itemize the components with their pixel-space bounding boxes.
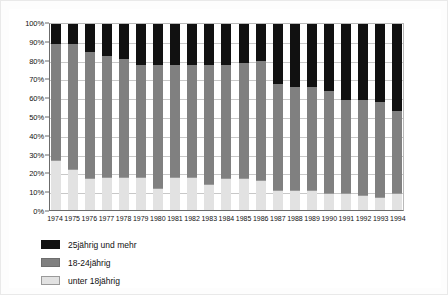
legend-swatch-25-plus [41,240,60,249]
bar-1974 [51,24,61,210]
bar-segment-18-24 [273,84,283,190]
bar-segment-18-24 [375,102,385,197]
bar-1977 [102,24,112,210]
x-axis-tick-label: 1987 [273,212,283,226]
bar-1994 [392,24,402,210]
y-axis-tick-label: 40% [29,131,44,140]
bar-segment-18-24 [239,63,249,178]
bar-segment-18-24 [85,52,95,178]
x-axis-tick-label: 1977 [101,212,111,226]
y-axis: 0%10%20%30%40%50%60%70%80%90%100% [9,23,49,211]
x-axis-tick-label: 1990 [324,212,334,226]
x-axis-tick-label: 1992 [359,212,369,226]
bar-segment-25-plus [170,24,180,65]
bar-1982 [187,24,197,210]
x-axis-tick-label: 1993 [376,212,386,226]
bar-segment-25-plus [221,24,231,65]
bar-segment-18-24 [392,111,402,193]
bar-segment-under-18 [256,180,266,210]
bar-segment-18-24 [256,61,266,180]
bar-segment-under-18 [307,190,317,210]
bar-segment-under-18 [273,190,283,210]
bar-segment-18-24 [358,100,368,195]
bar-segment-18-24 [119,59,129,176]
bar-segment-25-plus [392,24,402,111]
bar-segment-25-plus [239,24,249,63]
bar-segment-25-plus [136,24,146,65]
bar-segment-18-24 [341,100,351,193]
x-axis-tick-label: 1974 [50,212,60,226]
x-axis-tick-label: 1986 [256,212,266,226]
bar-segment-25-plus [341,24,351,100]
bar-segment-under-18 [170,177,180,210]
y-axis-tick-label: 60% [29,94,44,103]
bar-segment-18-24 [68,44,78,169]
y-axis-tick-label: 0% [33,207,44,216]
x-axis-tick-label: 1982 [187,212,197,226]
bar-segment-25-plus [51,24,61,44]
bar-segment-under-18 [51,160,61,210]
y-axis-tick-label: 50% [29,113,44,122]
bar-1975 [68,24,78,210]
y-axis-tick-label: 90% [29,37,44,46]
bar-1993 [375,24,385,210]
chart-legend: 25jährig und mehr 18-24jährig unter 18jä… [41,237,221,291]
bar-segment-25-plus [102,24,112,56]
bar-1992 [358,24,368,210]
x-axis: 1974197519761977197819791980198119821983… [49,212,404,226]
bar-1983 [204,24,214,210]
legend-swatch-under-18 [41,276,60,285]
x-axis-tick-label: 1985 [239,212,249,226]
bar-1988 [290,24,300,210]
legend-label-18-24: 18-24jährig [68,258,111,268]
bar-segment-under-18 [375,197,385,210]
bar-segment-under-18 [392,193,402,210]
y-axis-tick-label: 100% [25,19,44,28]
bar-1976 [85,24,95,210]
bar-segment-25-plus [204,24,214,65]
y-axis-tick-label: 80% [29,56,44,65]
x-axis-tick-label: 1991 [341,212,351,226]
bar-1981 [170,24,180,210]
x-axis-tick-label: 1981 [170,212,180,226]
bar-segment-18-24 [153,65,163,188]
bar-1987 [273,24,283,210]
bar-segment-under-18 [204,184,214,210]
plot-area [49,23,404,211]
bar-segment-18-24 [204,65,214,184]
bar-segment-under-18 [68,169,78,210]
legend-label-25-plus: 25jährig und mehr [68,240,137,250]
x-axis-tick-label: 1978 [119,212,129,226]
bar-segment-25-plus [68,24,78,44]
bar-segment-under-18 [136,177,146,210]
bar-1980 [153,24,163,210]
bar-1984 [221,24,231,210]
x-axis-tick-label: 1988 [290,212,300,226]
bar-1986 [256,24,266,210]
y-axis-tick-label: 30% [29,150,44,159]
bar-series-container [50,24,403,210]
bar-segment-25-plus [358,24,368,100]
bar-segment-18-24 [221,65,231,178]
bar-segment-under-18 [290,190,300,210]
bar-segment-25-plus [119,24,129,59]
bar-segment-under-18 [187,177,197,210]
bar-segment-18-24 [290,87,300,189]
x-axis-tick-label: 1975 [67,212,77,226]
y-axis-tick-label: 20% [29,169,44,178]
y-axis-tick-label: 70% [29,75,44,84]
bar-segment-18-24 [187,65,197,177]
legend-item-under-18: unter 18jährig [41,273,221,288]
bar-1989 [307,24,317,210]
bar-segment-25-plus [307,24,317,87]
bar-1990 [324,24,334,210]
bar-segment-under-18 [239,178,249,210]
bar-segment-18-24 [102,56,112,177]
legend-swatch-18-24 [41,258,60,267]
chart-figure: 0%10%20%30%40%50%60%70%80%90%100% 197419… [9,9,441,288]
bar-segment-under-18 [153,188,163,210]
bar-segment-18-24 [307,87,317,189]
bar-segment-25-plus [85,24,95,52]
bar-segment-under-18 [102,177,112,210]
x-axis-tick-label: 1980 [153,212,163,226]
